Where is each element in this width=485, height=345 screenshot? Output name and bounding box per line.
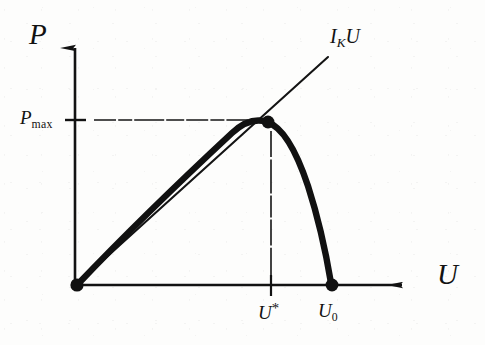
ustar-superscript: * <box>272 300 279 316</box>
u0-base: U <box>318 300 332 321</box>
tangent-label-main: I <box>330 25 337 47</box>
y-axis-label: P <box>29 20 47 49</box>
pmax-base: P <box>20 107 32 128</box>
y-tick-label-pmax: Pmax <box>20 108 52 131</box>
x-tick-label-u0: U0 <box>318 301 338 324</box>
origin-point-marker <box>70 278 83 291</box>
maximum-power-point-marker <box>262 116 275 129</box>
plot-canvas <box>0 0 485 345</box>
x-tick-label-ustar: U* <box>258 301 279 322</box>
x-axis-label: U <box>437 260 458 289</box>
pmax-subscript: max <box>32 118 53 131</box>
open-circuit-point-marker <box>326 279 339 292</box>
ustar-base: U <box>258 302 272 323</box>
u0-subscript: 0 <box>332 311 338 324</box>
tangent-line-label: IKU <box>330 26 360 49</box>
tangent-label-tail: U <box>345 25 359 47</box>
power-voltage-figure: P U Pmax U* U0 IKU <box>0 0 485 345</box>
power-curve <box>78 120 331 284</box>
